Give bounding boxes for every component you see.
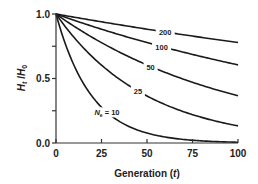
y-tick-label: 1.0	[36, 9, 50, 20]
y-ticks: 0.00.51.0	[36, 9, 56, 149]
x-axis-title-close: )	[176, 168, 179, 179]
x-axis-title-main: Generation (	[114, 168, 174, 179]
curve-label-ne-10: Ne = 10	[94, 108, 119, 118]
x-tick-label: 0	[53, 148, 59, 159]
curve-label-ne-25: 25	[134, 87, 142, 96]
y-tick-label: 0.0	[36, 138, 50, 149]
x-tick-label: 75	[187, 148, 199, 159]
curve-label-ne-50: 50	[146, 63, 154, 72]
y-axis-title: Ht /H0	[16, 65, 28, 91]
x-axis-title: Generation (t)	[114, 168, 180, 179]
x-tick-label: 50	[141, 148, 153, 159]
curve-ne-10	[56, 14, 238, 142]
x-tick-label: 25	[96, 148, 108, 159]
y-axis-title-sub-0: 0	[21, 65, 28, 69]
y-tick-label: 0.5	[36, 73, 50, 84]
chart: 0.00.51.0 0255075100 2001005025Ne = 10 G…	[0, 0, 258, 184]
curve-label-ne-200: 200	[159, 28, 172, 37]
curve-labels: 2001005025Ne = 10	[91, 27, 175, 118]
curve-ne-200	[56, 14, 238, 43]
x-tick-label: 100	[230, 148, 247, 159]
curves-group	[56, 14, 238, 142]
curve-label-ne-100: 100	[155, 43, 168, 52]
